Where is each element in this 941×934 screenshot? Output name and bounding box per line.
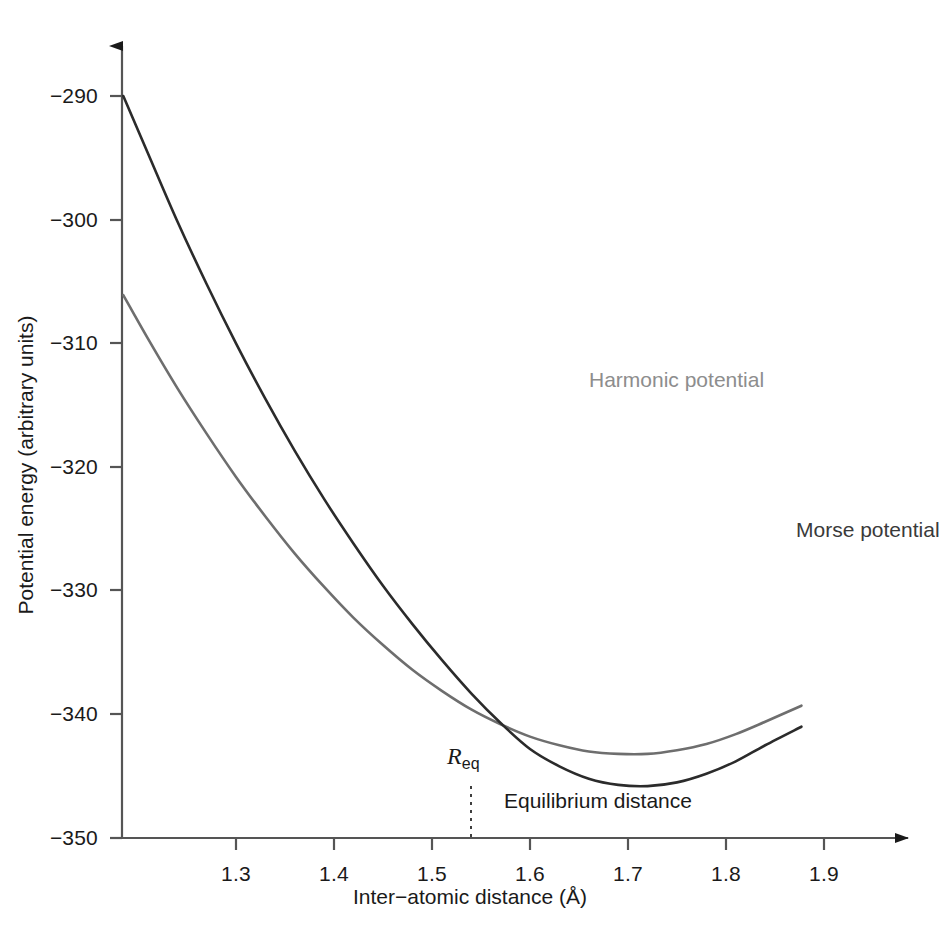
y-tick-label-300: −300 (20, 208, 98, 232)
req-symbol: R (447, 743, 462, 769)
x-axis-ticks (236, 838, 824, 850)
morse-potential-label: Morse potential (796, 518, 940, 542)
y-tick-label-290: −290 (20, 84, 98, 108)
x-tick-label-1-6: 1.6 (515, 862, 545, 886)
x-axis-title: Inter−atomic distance (Å) (353, 885, 587, 909)
x-tick-label-1-3: 1.3 (221, 862, 251, 886)
morse-potential-curve (123, 96, 801, 786)
potential-energy-chart: −290 −300 −310 −320 −330 −340 −350 1.3 1… (0, 0, 941, 934)
req-annotation: Req (447, 743, 480, 773)
y-axis-ticks (110, 96, 122, 838)
y-tick-label-350: −350 (20, 826, 98, 850)
chart-plot-area (0, 0, 941, 934)
x-tick-label-1-5: 1.5 (417, 862, 447, 886)
x-tick-label-1-9: 1.9 (809, 862, 839, 886)
x-tick-label-1-4: 1.4 (319, 862, 349, 886)
harmonic-potential-label: Harmonic potential (589, 368, 764, 392)
y-tick-label-340: −340 (20, 702, 98, 726)
x-tick-label-1-8: 1.8 (711, 862, 741, 886)
y-axis-title: Potential energy (arbitrary units) (14, 316, 38, 615)
x-tick-label-1-7: 1.7 (613, 862, 643, 886)
req-subscript: eq (462, 755, 480, 772)
equilibrium-distance-annotation: Equilibrium distance (504, 789, 692, 813)
